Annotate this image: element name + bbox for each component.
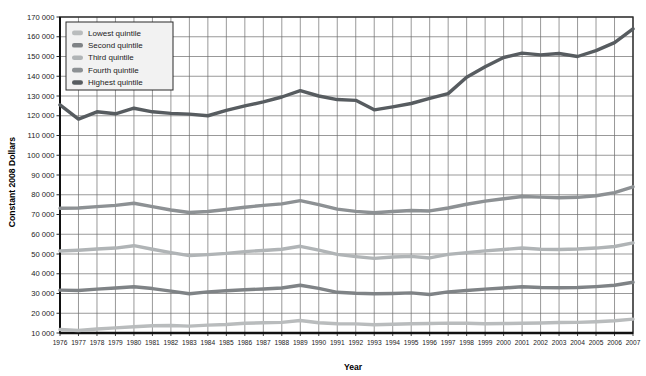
y-axis-tick-label: 80 000: [31, 190, 54, 199]
x-axis-tick-label: 2000: [496, 339, 511, 346]
x-axis-tick-label: 1999: [478, 339, 493, 346]
legend-label: Third quintile: [88, 53, 134, 62]
legend-label: Second quintile: [88, 41, 143, 50]
x-axis-title: Year: [344, 362, 363, 372]
x-axis-tick-label: 1991: [330, 339, 345, 346]
x-axis-tick-label: 1986: [238, 339, 253, 346]
x-axis-tick-label: 1992: [348, 339, 363, 346]
x-axis-tick-label: 2002: [533, 339, 548, 346]
y-axis-tick-label: 60 000: [31, 230, 54, 239]
y-axis-tick-label: 130 000: [27, 92, 54, 101]
x-axis-tick-label: 1990: [311, 339, 326, 346]
x-axis-tick-label: 1995: [404, 339, 419, 346]
x-axis-tick-label: 1980: [127, 339, 142, 346]
legend-swatch: [72, 31, 83, 36]
x-axis-tick-label: 1989: [293, 339, 308, 346]
y-axis-tick-label: 70 000: [31, 210, 54, 219]
x-axis-tick-label: 1984: [201, 339, 216, 346]
y-axis-tick-label: 50 000: [31, 250, 54, 259]
y-axis-tick-label: 40 000: [31, 269, 54, 278]
y-axis-tick-label: 100 000: [27, 151, 54, 160]
legend-label: Lowest quintile: [88, 29, 141, 38]
x-axis-tick-label: 1987: [256, 339, 271, 346]
x-axis-tick-label: 2001: [515, 339, 530, 346]
x-axis-tick-label: 1997: [441, 339, 456, 346]
x-axis-tick-label: 2006: [607, 339, 622, 346]
x-axis-tick-label: 1976: [53, 339, 68, 346]
y-axis-title: Constant 2008 Dollars: [7, 137, 17, 227]
x-axis-tick-label: 1982: [164, 339, 179, 346]
y-axis-tick-label: 10 000: [31, 329, 54, 338]
y-axis-tick-label: 150 000: [27, 52, 54, 61]
legend-swatch: [72, 43, 83, 48]
x-axis-tick-label: 2007: [626, 339, 641, 346]
chart-container: 10 00020 00030 00040 00050 00060 00070 0…: [0, 0, 646, 376]
x-axis-tick-label: 2004: [570, 339, 585, 346]
x-axis-tick-label: 1978: [90, 339, 105, 346]
y-axis-tick-label: 140 000: [27, 72, 54, 81]
x-axis-tick-label: 1979: [108, 339, 123, 346]
y-axis-tick-label: 120 000: [27, 111, 54, 120]
legend-swatch: [72, 80, 83, 85]
x-axis-tick-label: 2005: [589, 339, 604, 346]
x-axis-tick-label: 1998: [459, 339, 474, 346]
x-axis-tick-label: 1977: [71, 339, 86, 346]
legend-label: Fourth quintile: [88, 66, 139, 75]
y-axis-tick-label: 20 000: [31, 309, 54, 318]
chart-legend: Lowest quintileSecond quintileThird quin…: [66, 22, 173, 90]
y-axis-tick-label: 90 000: [31, 171, 54, 180]
x-axis-tick-label: 1994: [385, 339, 400, 346]
x-axis-tick-label: 1985: [219, 339, 234, 346]
x-axis-tick-label: 1983: [182, 339, 197, 346]
legend-swatch: [72, 68, 83, 73]
y-axis-tick-label: 160 000: [27, 32, 54, 41]
y-axis-tick-label: 110 000: [28, 131, 55, 140]
x-axis-tick-label: 1981: [145, 339, 160, 346]
legend-swatch: [72, 55, 83, 60]
x-axis-tick-label: 1996: [422, 339, 437, 346]
line-chart: 10 00020 00030 00040 00050 00060 00070 0…: [0, 0, 646, 376]
x-axis-tick-label: 1988: [274, 339, 289, 346]
x-axis-tick-label: 2003: [552, 339, 567, 346]
x-axis-tick-label: 1993: [367, 339, 382, 346]
legend-label: Highest quintile: [88, 78, 143, 87]
y-axis-tick-label: 30 000: [31, 289, 54, 298]
y-axis-tick-label: 170 000: [27, 13, 54, 22]
